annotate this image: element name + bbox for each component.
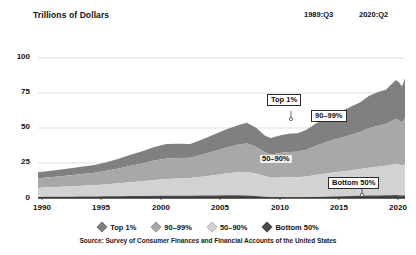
x-tick-2005: 2005 bbox=[211, 203, 229, 212]
legend-label-50-90-percent: 50–90% bbox=[220, 223, 248, 232]
legend-swatch-icon-50-90-percent bbox=[206, 221, 217, 232]
callout-50-90-percent: 50–90% bbox=[260, 155, 292, 163]
x-tick-2015: 2015 bbox=[330, 203, 348, 212]
legend-item-90-99-percent[interactable]: 90–99% bbox=[151, 222, 192, 232]
callout-90-99-percent: 90–99% bbox=[311, 110, 347, 122]
legend-swatch-icon-bottom-50-percent bbox=[262, 221, 273, 232]
y-tick-75: 75 bbox=[0, 87, 30, 96]
legend-label-bottom-50-percent: Bottom 50% bbox=[275, 223, 318, 232]
y-tick-0: 0 bbox=[0, 193, 30, 202]
legend-label-top-1-percent: Top 1% bbox=[110, 223, 136, 232]
chart-axis-title: Trillions of Dollars bbox=[33, 10, 109, 20]
period-end-label: 2020:Q2 bbox=[359, 10, 388, 19]
legend-item-50-90-percent[interactable]: 50–90% bbox=[207, 222, 248, 232]
legend-item-bottom-50-percent[interactable]: Bottom 50% bbox=[262, 222, 318, 232]
period-start-label: 1989:Q3 bbox=[304, 10, 333, 19]
legend-swatch-icon-top-1-percent bbox=[97, 221, 108, 232]
callout-top-1-percent: Top 1% bbox=[267, 94, 301, 106]
source-note: Source: Survey of Consumer Finances and … bbox=[0, 237, 416, 244]
chart-legend: Top 1% 90–99% 50–90% Bottom 50% bbox=[0, 222, 416, 232]
y-tick-50: 50 bbox=[0, 122, 30, 131]
plot-area: Top 1% 90–99% 50–90% Bottom 50% bbox=[38, 56, 405, 200]
legend-label-90-99-percent: 90–99% bbox=[164, 223, 192, 232]
y-tick-25: 25 bbox=[0, 157, 30, 166]
x-tick-2000: 2000 bbox=[152, 203, 170, 212]
callout-bottom-50-percent: Bottom 50% bbox=[328, 177, 379, 189]
y-tick-100: 100 bbox=[0, 52, 30, 61]
legend-item-top-1-percent[interactable]: Top 1% bbox=[97, 222, 136, 232]
x-tick-1990: 1990 bbox=[33, 203, 51, 212]
x-tick-2010: 2010 bbox=[271, 203, 289, 212]
x-tick-1995: 1995 bbox=[92, 203, 110, 212]
legend-swatch-icon-90-99-percent bbox=[151, 221, 162, 232]
x-tick-2020: 2020 bbox=[389, 203, 407, 212]
chart-figure: Trillions of Dollars 1989:Q3 2020:Q2 100… bbox=[0, 0, 416, 255]
